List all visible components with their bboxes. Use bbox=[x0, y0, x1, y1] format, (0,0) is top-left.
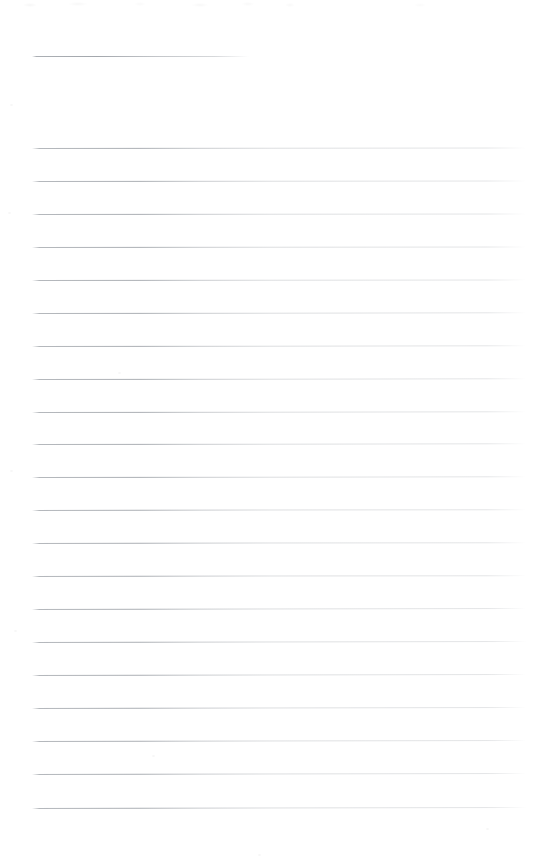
writing-line-21[interactable] bbox=[32, 748, 526, 774]
ruled-line bbox=[32, 345, 526, 347]
ruled-line bbox=[32, 378, 526, 380]
writing-line-15[interactable] bbox=[32, 550, 526, 576]
scan-speck-icon bbox=[258, 854, 261, 856]
ruled-line bbox=[32, 147, 526, 149]
writing-line-5[interactable] bbox=[32, 221, 526, 247]
writing-line-2[interactable] bbox=[32, 122, 526, 148]
writing-line-10[interactable] bbox=[32, 386, 526, 412]
writing-line-12[interactable] bbox=[32, 451, 526, 477]
writing-line-7[interactable] bbox=[32, 287, 526, 313]
ruled-line bbox=[32, 509, 526, 511]
ruled-line bbox=[32, 807, 526, 809]
scan-speck-icon bbox=[8, 212, 11, 214]
writing-line-13[interactable] bbox=[32, 484, 526, 510]
writing-line-19[interactable] bbox=[32, 682, 526, 708]
writing-line-22[interactable] bbox=[32, 782, 526, 808]
writing-line-14[interactable] bbox=[32, 517, 526, 543]
writing-line-4[interactable] bbox=[32, 188, 526, 214]
scan-speck-icon bbox=[10, 104, 13, 106]
writing-line-9[interactable] bbox=[32, 353, 526, 379]
ruled-line bbox=[32, 443, 526, 445]
ruled-line bbox=[32, 411, 526, 413]
ruled-line bbox=[32, 213, 526, 215]
ruled-line bbox=[32, 674, 526, 676]
ruled-line bbox=[32, 740, 526, 742]
scan-speck-icon bbox=[10, 470, 13, 472]
ruled-line bbox=[32, 476, 526, 478]
ruled-line bbox=[32, 312, 526, 314]
writing-line-11[interactable] bbox=[32, 418, 526, 444]
scan-speck-icon bbox=[152, 755, 155, 757]
writing-line-20[interactable] bbox=[32, 715, 526, 741]
ruled-line bbox=[32, 707, 526, 709]
scan-noise-artifact bbox=[0, 0, 537, 14]
ruled-line bbox=[32, 56, 249, 57]
scan-speck-icon bbox=[486, 828, 489, 830]
writing-line-16[interactable] bbox=[32, 583, 526, 609]
writing-line-8[interactable] bbox=[32, 320, 526, 346]
scan-speck-icon bbox=[118, 372, 121, 374]
writing-line-6[interactable] bbox=[32, 254, 526, 280]
ruled-line bbox=[32, 575, 526, 577]
scanned-page bbox=[0, 0, 537, 866]
ruled-line bbox=[32, 608, 526, 610]
writing-line-3[interactable] bbox=[32, 155, 526, 181]
ruled-line bbox=[32, 641, 526, 643]
scan-speck-icon bbox=[14, 630, 17, 632]
ruled-line bbox=[32, 542, 526, 544]
ruled-line bbox=[32, 246, 526, 248]
ruled-line bbox=[32, 180, 526, 182]
ruled-line bbox=[32, 773, 526, 775]
ruled-line bbox=[32, 279, 526, 281]
writing-line-17[interactable] bbox=[32, 616, 526, 642]
writing-line-18[interactable] bbox=[32, 649, 526, 675]
